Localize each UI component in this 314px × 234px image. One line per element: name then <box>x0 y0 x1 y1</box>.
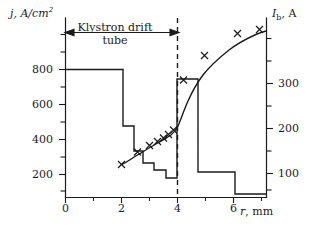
marker-x <box>201 52 208 59</box>
annotation-double-arrow <box>65 29 179 35</box>
series-beam-current-curve <box>122 31 267 165</box>
marker-x <box>118 161 125 168</box>
marker-x <box>180 77 187 84</box>
right-axis-ticks <box>267 39 274 191</box>
marker-x <box>234 30 241 37</box>
x-axis-ticks <box>66 198 262 204</box>
figure-root: j, A/cm2 Ib, A r, mm Klystron drift tube… <box>0 0 314 234</box>
marker-x <box>256 26 263 33</box>
plot-canvas <box>0 0 314 234</box>
left-axis-ticks <box>59 35 66 192</box>
